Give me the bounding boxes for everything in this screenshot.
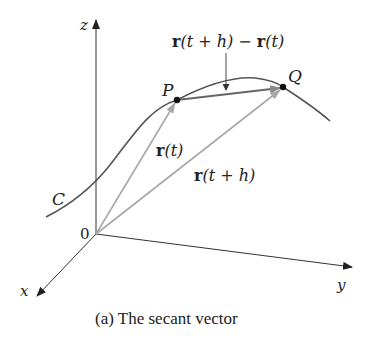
z-axis-label: z (79, 16, 88, 34)
vector-r-t-plus-h (96, 90, 280, 234)
curve-label: C (52, 189, 65, 209)
point-p-label: P (161, 80, 174, 100)
secant-vector-label: r(t + h) − r(t) (172, 32, 284, 51)
point-q-label: Q (288, 66, 302, 86)
origin-label: 0 (80, 225, 90, 243)
vector-r-t-label: r(t) (156, 141, 183, 160)
y-axis-label: y (336, 276, 346, 294)
figure-caption: (a) The secant vector (95, 309, 238, 328)
point-p (174, 97, 180, 103)
y-axis (96, 234, 352, 267)
vector-r-t-plus-h-label: r(t + h) (194, 166, 255, 185)
x-axis-label: x (20, 282, 29, 300)
x-axis (37, 234, 96, 296)
secant-vector (177, 88, 280, 100)
point-q (280, 84, 286, 90)
secant-vector-diagram: z y x 0 C P Q r(t) r(t + h) r(t + h) − r… (0, 0, 373, 343)
